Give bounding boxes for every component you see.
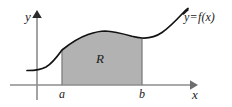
region-label-r: R xyxy=(96,52,104,65)
y-axis-arrowhead xyxy=(32,10,42,18)
left-bound-label-a: a xyxy=(59,88,65,100)
right-bound-label-b: b xyxy=(139,88,145,100)
curve-equation-function: f(x) xyxy=(198,10,215,24)
curve-equation-label: y=f(x) xyxy=(184,11,215,23)
area-under-curve-figure: y x a b R y=f(x) xyxy=(0,0,232,107)
x-axis-label: x xyxy=(192,88,198,101)
curve-equation-equals: = xyxy=(189,10,198,24)
y-axis-label: y xyxy=(25,10,31,23)
